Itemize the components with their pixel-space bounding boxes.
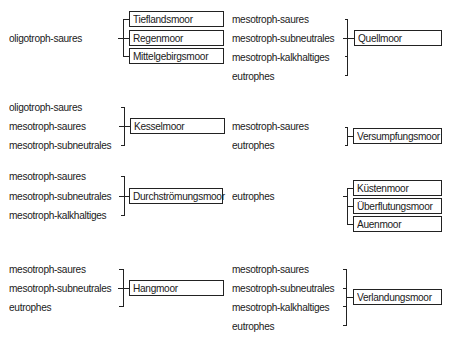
moor-type-box: Auenmoor	[353, 216, 442, 232]
moor-type-box: Kesselmoor	[130, 118, 225, 134]
trophic-label: mesotroph-saures	[232, 12, 309, 26]
moor-type-box: Verlandungsmoor	[353, 289, 442, 305]
connector-line	[343, 38, 354, 39]
moor-type-box: Hangmoor	[129, 280, 224, 296]
trophic-label: eutrophes	[232, 138, 274, 152]
moor-type-box: Mittelgebirgsmoor	[129, 48, 224, 64]
trophic-label: mesotroph-subneutrales	[232, 31, 334, 45]
connector-line	[346, 297, 353, 298]
moor-type-box: Quellmoor	[354, 30, 442, 46]
trophic-label: oligotroph-saures	[9, 31, 82, 45]
connector-line	[119, 126, 130, 127]
trophic-label: mesotroph-subneutrales	[9, 281, 111, 295]
trophic-label: eutrophes	[232, 319, 274, 333]
bracket-line	[347, 19, 348, 76]
moor-type-box: Tieflandsmoor	[129, 11, 224, 27]
trophic-label: eutrophes	[232, 189, 274, 203]
trophic-label: mesotroph-saures	[9, 119, 86, 133]
trophic-label: mesotroph-kalkhaltiges	[232, 300, 329, 314]
trophic-label: mesotroph-saures	[9, 262, 86, 276]
moor-type-box: Regenmoor	[129, 30, 224, 46]
moor-type-box: Versumpfungsmoor	[353, 128, 442, 144]
trophic-label: mesotroph-subneutrales	[9, 138, 111, 152]
connector-line	[118, 288, 129, 289]
trophic-label: mesotroph-kalkhaltiges	[9, 208, 106, 222]
trophic-label: mesotroph-subneutrales	[232, 281, 334, 295]
trophic-label: eutrophes	[232, 69, 274, 83]
trophic-label: mesotroph-subneutrales	[9, 189, 111, 203]
trophic-label: oligotroph-saures	[9, 100, 82, 114]
trophic-label: mesotroph-kalkhaltiges	[232, 50, 329, 64]
connector-line	[119, 196, 129, 197]
moor-type-box: Küstenmoor	[353, 180, 442, 196]
trophic-label: mesotroph-saures	[232, 119, 309, 133]
trophic-label: mesotroph-saures	[9, 169, 86, 183]
trophic-label: mesotroph-saures	[232, 262, 309, 276]
moor-type-box: Überflutungsmoor	[353, 198, 442, 214]
moor-type-box: Durchströmungsmoor	[129, 188, 223, 204]
trophic-label: eutrophes	[9, 300, 51, 314]
